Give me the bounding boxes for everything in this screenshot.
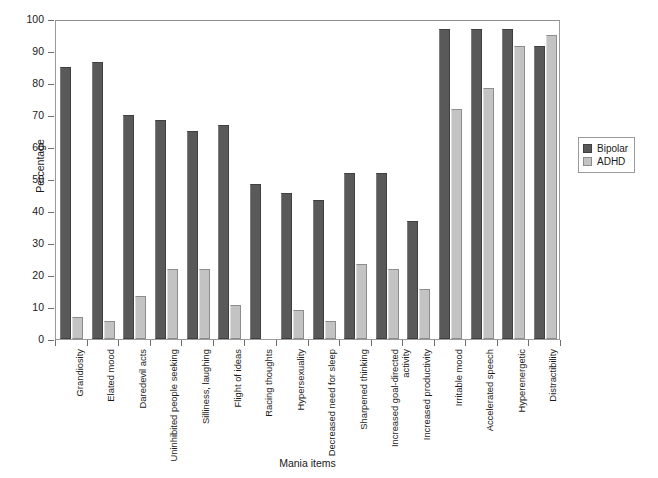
- bar-bipolar: [439, 29, 450, 339]
- x-axis-tick-mark: [181, 340, 182, 346]
- bar-adhd: [72, 317, 83, 339]
- bar-adhd: [199, 269, 210, 339]
- legend-label: Bipolar: [597, 143, 628, 154]
- bar-group: [250, 21, 273, 339]
- x-axis-title: Mania items: [55, 457, 560, 469]
- y-axis-tick-label: 20: [4, 269, 44, 281]
- x-axis-tick-mark: [339, 340, 340, 346]
- bar-group: [123, 21, 146, 339]
- x-axis-tick-label: Silliness, laughing: [201, 349, 212, 424]
- x-axis-tick-label: Racing thoughts: [264, 349, 275, 417]
- x-axis-tick-label: Uninhibited people seeking: [169, 349, 180, 469]
- bar-bipolar: [92, 62, 103, 339]
- y-axis-tick-label: 70: [4, 109, 44, 121]
- bar-bipolar: [407, 221, 418, 339]
- bar-group: [60, 21, 83, 339]
- x-axis-tick-label: Elated mood: [106, 349, 117, 402]
- x-axis-tick-mark: [371, 340, 372, 346]
- bar-bipolar: [344, 173, 355, 339]
- legend-entry: Bipolar: [583, 142, 628, 155]
- x-axis-tick-label: Hyperenergetic: [517, 349, 528, 413]
- y-axis-tick-mark: [48, 276, 54, 277]
- legend-label: ADHD: [597, 156, 625, 167]
- y-axis-tick-label: 80: [4, 77, 44, 89]
- y-axis-tick-label: 10: [4, 301, 44, 313]
- bar-bipolar: [60, 67, 71, 339]
- bar-bipolar: [534, 46, 545, 339]
- bar-group: [92, 21, 115, 339]
- x-axis-tick-mark: [308, 340, 309, 346]
- bar-bipolar: [218, 125, 229, 339]
- bar-group: [439, 21, 462, 339]
- bar-group: [407, 21, 430, 339]
- bar-adhd: [546, 35, 557, 339]
- y-axis-tick-mark: [48, 116, 54, 117]
- y-axis-tick-mark: [48, 52, 54, 53]
- y-axis-tick-label: 30: [4, 237, 44, 249]
- x-axis-tick-mark: [497, 340, 498, 346]
- bar-bipolar: [155, 120, 166, 339]
- y-axis-tick-mark: [48, 20, 54, 21]
- x-axis-tick-mark: [434, 340, 435, 346]
- bar-group: [218, 21, 241, 339]
- y-axis-tick-label: 50: [4, 173, 44, 185]
- bar-bipolar: [250, 184, 261, 339]
- bar-bipolar: [281, 193, 292, 339]
- chart-figure: Percentage 0102030405060708090100 Grandi…: [0, 0, 658, 478]
- bars-layer: [56, 21, 559, 339]
- y-axis-tick-label: 100: [4, 13, 44, 25]
- x-axis-tick-label: Distractibility: [548, 349, 559, 402]
- bar-bipolar: [471, 29, 482, 339]
- x-axis-tick-mark: [213, 340, 214, 346]
- x-axis-tick-label: Accelerated speech: [485, 349, 496, 431]
- x-axis-tick-mark: [402, 340, 403, 346]
- x-axis-tick-label: Increased productivity: [422, 349, 433, 440]
- bar-adhd: [514, 46, 525, 339]
- bar-bipolar: [376, 173, 387, 339]
- bar-group: [502, 21, 525, 339]
- bar-adhd: [167, 269, 178, 339]
- x-axis-tick-label: Grandiosity: [75, 349, 86, 396]
- x-axis-tick-mark: [465, 340, 466, 346]
- bar-group: [187, 21, 210, 339]
- bar-bipolar: [502, 29, 513, 339]
- y-axis-tick-mark: [48, 340, 54, 341]
- bar-group: [534, 21, 557, 339]
- plot-area: [55, 20, 560, 340]
- x-axis-tick-mark: [150, 340, 151, 346]
- bar-group: [281, 21, 304, 339]
- y-axis-tick-label: 60: [4, 141, 44, 153]
- bar-bipolar: [313, 200, 324, 339]
- x-axis-tick-label: Flight of ideas: [233, 349, 244, 407]
- y-axis-tick-label: 90: [4, 45, 44, 57]
- y-axis-tick-label: 0: [4, 333, 44, 345]
- y-axis-tick-mark: [48, 212, 54, 213]
- bar-adhd: [356, 264, 367, 339]
- bar-adhd: [388, 269, 399, 339]
- bar-adhd: [293, 310, 304, 339]
- y-axis-tick-mark: [48, 84, 54, 85]
- bar-bipolar: [123, 115, 134, 339]
- x-axis-tick-mark: [276, 340, 277, 346]
- x-axis-tick-mark: [560, 340, 561, 346]
- x-axis-tick-mark: [244, 340, 245, 346]
- bar-adhd: [451, 109, 462, 339]
- bar-group: [313, 21, 336, 339]
- legend-swatch-adhd: [583, 157, 592, 166]
- x-axis-tick-mark: [87, 340, 88, 346]
- chart-legend: BipolarADHD: [578, 137, 635, 173]
- x-axis-tick-mark: [528, 340, 529, 346]
- y-axis-tick-label: 40: [4, 205, 44, 217]
- bar-bipolar: [187, 131, 198, 339]
- legend-entry: ADHD: [583, 155, 628, 168]
- x-axis-tick-label: Daredevil acts: [138, 349, 149, 408]
- x-axis-tick-label: Sharpened thinking: [359, 349, 370, 430]
- bar-adhd: [104, 321, 115, 339]
- x-axis-tick-label: Increased goal-directed activity: [390, 349, 411, 469]
- x-axis-tick-label: Irritable mood: [454, 349, 465, 406]
- y-axis-tick-mark: [48, 148, 54, 149]
- x-axis-tick-label: Decreased need for sleep: [327, 349, 338, 456]
- bar-adhd: [419, 289, 430, 339]
- y-axis-tick-mark: [48, 180, 54, 181]
- bar-group: [376, 21, 399, 339]
